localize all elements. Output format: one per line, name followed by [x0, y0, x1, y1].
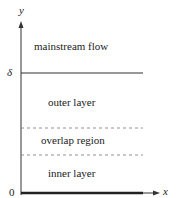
- y-axis-label: y: [19, 4, 24, 16]
- inner-layer-label: inner layer: [48, 167, 95, 179]
- delta-label: δ: [7, 66, 12, 78]
- x-axis-arrow-icon: [153, 191, 160, 196]
- x-axis-label: x: [163, 185, 168, 197]
- mainstream-flow-label: mainstream flow: [34, 40, 108, 52]
- origin-label: 0: [9, 186, 15, 198]
- overlap-region-label: overlap region: [41, 134, 105, 146]
- outer-layer-label: outer layer: [48, 96, 95, 108]
- y-axis-arrow-icon: [19, 21, 24, 28]
